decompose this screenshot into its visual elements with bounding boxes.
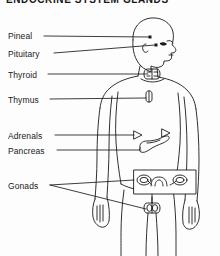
thymus-gland-marker — [146, 91, 152, 102]
gonads-female-inset — [134, 170, 196, 194]
human-figure-illustration — [0, 0, 220, 256]
label-pineal: Pineal — [8, 32, 32, 41]
pancreas-marker — [139, 136, 169, 152]
label-adrenals: Adrenals — [8, 132, 42, 141]
endocrine-diagram: ENDOCRINE SYSTEM GLANDS — [0, 0, 220, 256]
label-pancreas: Pancreas — [8, 147, 45, 156]
label-gonads: Gonads — [8, 182, 38, 191]
left-hand — [93, 197, 110, 227]
label-pituitary: Pituitary — [8, 50, 40, 59]
label-thymus: Thymus — [8, 96, 39, 105]
leader-line-thymus — [50, 98, 146, 99]
label-thyroid: Thyroid — [8, 71, 37, 80]
body-outline — [95, 66, 199, 256]
leader-line-pituitary — [54, 45, 155, 53]
adrenal-gland-left-marker — [134, 131, 142, 139]
right-hand — [183, 200, 200, 229]
